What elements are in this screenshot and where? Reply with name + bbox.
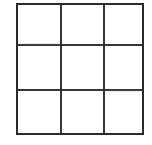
grid-drawing — [16, 3, 144, 135]
grid-cell-r1c1[interactable] — [18, 5, 60, 44]
grid-figure-canvas — [0, 0, 152, 145]
grid-cells — [18, 5, 142, 133]
grid-cell-r1c3[interactable] — [105, 5, 142, 44]
grid-cell-r2c1[interactable] — [18, 46, 60, 89]
grid-cell-r2c2[interactable] — [62, 46, 103, 89]
grid-cell-r3c3[interactable] — [105, 91, 142, 133]
grid-cell-r2c3[interactable] — [105, 46, 142, 89]
three-by-three-grid — [16, 3, 144, 135]
grid-cell-r1c2[interactable] — [62, 5, 103, 44]
grid-cell-r3c1[interactable] — [18, 91, 60, 133]
grid-cell-r3c2[interactable] — [62, 91, 103, 133]
